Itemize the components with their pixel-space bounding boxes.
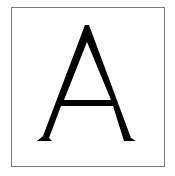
letter-a-glyph	[0, 0, 175, 176]
